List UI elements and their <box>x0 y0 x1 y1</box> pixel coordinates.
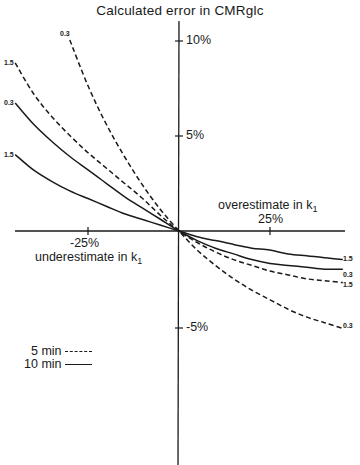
solid-line-swatch-icon <box>65 364 92 365</box>
x-tick-label-m25: -25% <box>70 236 99 250</box>
curve-label-5min-0.3-right: 0.3 <box>343 322 353 329</box>
curve-label-10min-0.3-right: 0.3 <box>343 271 353 278</box>
legend-label-10min: 10 min <box>24 357 62 371</box>
y-tick-label-5: 5% <box>186 128 204 142</box>
series-line-5-min-0-3 <box>70 40 343 328</box>
curve-label-5min-1.5-right: 1.5 <box>343 281 353 288</box>
curve-label-5min-1.5-left: 1.5 <box>4 59 14 66</box>
y-axis <box>178 21 179 465</box>
legend-item-5min: 5 min <box>31 344 92 358</box>
x-tick-label-25: 25% <box>258 212 283 226</box>
y-tick-label-10: 10% <box>186 33 211 47</box>
k-subscript: 1 <box>137 256 142 266</box>
curve-label-10min-1.5-left: 1.5 <box>4 151 14 158</box>
overestimate-text: overestimate in k <box>218 198 312 212</box>
legend-item-10min: 10 min <box>24 357 92 371</box>
chart-title: Calculated error in CMRglc <box>0 3 360 18</box>
curve-label-5min-0.3-left: 0.3 <box>60 30 70 37</box>
curve-label-10min-1.5-right: 1.5 <box>343 255 353 262</box>
legend-label-5min: 5 min <box>31 344 62 358</box>
dashed-line-swatch-icon <box>65 351 92 352</box>
y-tick-label-m5: -5% <box>186 320 208 334</box>
curve-label-10min-0.3-left: 0.3 <box>4 99 14 106</box>
k-subscript: 1 <box>312 204 317 214</box>
x-label-underestimate: underestimate in k1 <box>35 250 142 266</box>
x-label-overestimate: overestimate in k1 <box>218 198 318 214</box>
chart: Calculated error in CMRglc 10% 5% -5% -2… <box>0 0 360 465</box>
underestimate-text: underestimate in k <box>35 250 137 264</box>
plot-area <box>0 0 360 465</box>
